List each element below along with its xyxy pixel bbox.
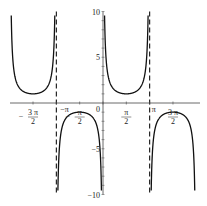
svg-text:2: 2 xyxy=(171,117,175,126)
svg-text:π: π xyxy=(124,108,128,117)
x-tick-label: π xyxy=(152,105,156,114)
curve-branch xyxy=(11,15,55,93)
y-tick-label: −5 xyxy=(91,145,100,154)
svg-text:−: − xyxy=(19,112,24,121)
x-tick-label-fraction: 3 π2 xyxy=(168,108,178,126)
x-tick-label: 0 xyxy=(96,105,100,114)
curve-branch xyxy=(105,15,149,93)
y-tick-label: 5 xyxy=(96,53,100,62)
svg-text:2: 2 xyxy=(78,117,82,126)
y-tick-label: −10 xyxy=(87,191,100,200)
svg-text:2: 2 xyxy=(124,117,128,126)
svg-text:π: π xyxy=(78,108,82,117)
svg-text:3 π: 3 π xyxy=(28,108,38,117)
svg-text:−: − xyxy=(65,112,70,121)
x-tick-label-fraction: π2 xyxy=(121,108,131,126)
csc-plot: −3 π2−π−π20π2π3 π2105−5−10 xyxy=(0,0,207,206)
y-tick-label: 10 xyxy=(92,8,100,17)
svg-text:3 π: 3 π xyxy=(168,108,178,117)
x-tick-label-fraction: −3 π2 xyxy=(19,108,38,126)
svg-text:2: 2 xyxy=(31,117,35,126)
tick-labels: −3 π2−π−π20π2π3 π2105−5−10 xyxy=(19,8,178,200)
